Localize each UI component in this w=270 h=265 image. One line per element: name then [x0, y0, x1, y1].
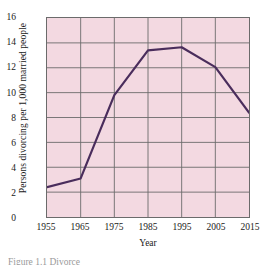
y-tick-label-0: 0 — [0, 213, 16, 223]
figure-caption: Figure 1.1 Divorce — [8, 257, 266, 265]
x-axis-title: Year — [46, 238, 250, 248]
y-tick-label-4: 4 — [0, 163, 16, 173]
y-tick-label-12: 12 — [0, 62, 16, 72]
y-tick-label-10: 10 — [0, 88, 16, 98]
plot-area — [46, 17, 250, 218]
divorce-rate-line-chart: Persons divorcing per 1,000 married peop… — [0, 0, 270, 265]
y-tick-label-6: 6 — [0, 138, 16, 148]
y-tick-label-16: 16 — [0, 12, 16, 22]
y-tick-label-2: 2 — [0, 188, 16, 198]
y-axis-title: Persons divorcing per 1,000 married peop… — [18, 4, 28, 212]
y-tick-label-8: 8 — [0, 113, 16, 123]
y-tick-label-14: 14 — [0, 37, 16, 47]
x-tick-label-2015: 2015 — [230, 222, 270, 232]
data-series-line — [47, 18, 249, 217]
